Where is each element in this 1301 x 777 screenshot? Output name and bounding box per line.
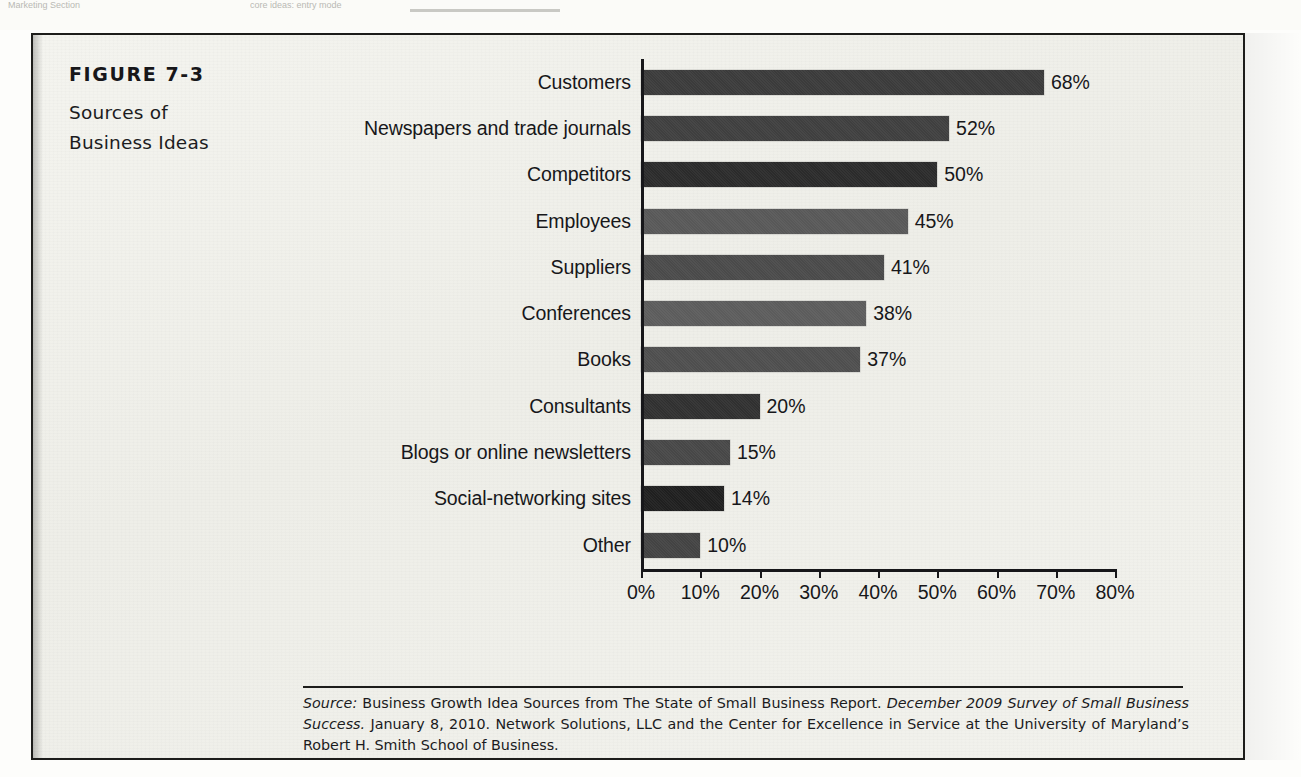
- bar-track: 10%: [641, 522, 1183, 568]
- bar-value-label: 15%: [737, 441, 776, 464]
- bar-track: 15%: [641, 429, 1183, 475]
- spine-shadow: [33, 35, 43, 758]
- bar-row: Employees45%: [303, 198, 1183, 244]
- bar: [641, 533, 700, 558]
- x-axis-tick: [1115, 569, 1117, 578]
- bar: [641, 70, 1044, 95]
- bar-value-label: 37%: [867, 348, 906, 371]
- bar-chart-plot-area: Customers68%Newspapers and trade journal…: [303, 59, 1183, 629]
- bar-category-label: Conferences: [303, 302, 641, 325]
- x-axis-tick: [937, 569, 939, 578]
- x-axis-tick-label: 70%: [1036, 581, 1075, 604]
- x-axis-tick: [641, 569, 643, 578]
- bar: [641, 347, 860, 372]
- x-axis-tick-label: 80%: [1095, 581, 1134, 604]
- bar-row: Other10%: [303, 522, 1183, 568]
- x-axis-tick: [1056, 569, 1058, 578]
- bar-value-label: 52%: [956, 117, 995, 140]
- x-axis-tick-label: 40%: [858, 581, 897, 604]
- x-axis-tick-label: 50%: [918, 581, 957, 604]
- source-text-2: January 8, 2010. Network Solutions, LLC …: [303, 716, 1189, 753]
- bar-track: 50%: [641, 152, 1183, 198]
- x-axis-tick: [760, 569, 762, 578]
- figure-title-line-2: Business Ideas: [69, 128, 309, 158]
- bar-value-label: 41%: [891, 256, 930, 279]
- bar-row: Newspapers and trade journals52%: [303, 105, 1183, 151]
- x-axis-tick-label: 0%: [627, 581, 655, 604]
- bar-track: 68%: [641, 59, 1183, 105]
- bar-row: Books37%: [303, 337, 1183, 383]
- bleed-text-left: Marketing Section: [8, 0, 158, 11]
- bleed-rule: [410, 9, 560, 12]
- bar-row: Consultants20%: [303, 383, 1183, 429]
- bar: [641, 440, 730, 465]
- x-axis-tick-label: 10%: [681, 581, 720, 604]
- bar: [641, 162, 937, 187]
- source-divider: [303, 686, 1183, 688]
- bar-category-label: Suppliers: [303, 256, 641, 279]
- x-axis-tick: [997, 569, 999, 578]
- source-label: Source:: [303, 695, 357, 711]
- x-axis-tick: [700, 569, 702, 578]
- bar-track: 45%: [641, 198, 1183, 244]
- bar-value-label: 68%: [1051, 71, 1090, 94]
- bar-category-label: Blogs or online newsletters: [303, 441, 641, 464]
- bar-track: 41%: [641, 244, 1183, 290]
- page-right-shadow: [1245, 33, 1301, 760]
- bar-row: Suppliers41%: [303, 244, 1183, 290]
- x-axis-tick-label: 60%: [977, 581, 1016, 604]
- bar-category-label: Employees: [303, 210, 641, 233]
- bar-category-label: Consultants: [303, 395, 641, 418]
- bar-category-label: Customers: [303, 71, 641, 94]
- bar-track: 52%: [641, 105, 1183, 151]
- bar-track: 20%: [641, 383, 1183, 429]
- x-axis-tick: [819, 569, 821, 578]
- bar-value-label: 14%: [731, 487, 770, 510]
- bar: [641, 255, 884, 280]
- bar-category-label: Newspapers and trade journals: [303, 117, 641, 140]
- bar-rows: Customers68%Newspapers and trade journal…: [303, 59, 1183, 568]
- bar-value-label: 50%: [944, 163, 983, 186]
- bar: [641, 394, 760, 419]
- bar-track: 14%: [641, 476, 1183, 522]
- bar-row: Conferences38%: [303, 290, 1183, 336]
- figure-caption: FIGURE 7-3 Sources of Business Ideas: [69, 63, 309, 158]
- bar: [641, 209, 908, 234]
- figure-title-line-1: Sources of: [69, 98, 309, 128]
- bar-track: 38%: [641, 290, 1183, 336]
- x-axis-tick: [878, 569, 880, 578]
- bar: [641, 486, 724, 511]
- bar-row: Blogs or online newsletters15%: [303, 429, 1183, 475]
- bar-category-label: Other: [303, 534, 641, 557]
- bar-category-label: Competitors: [303, 163, 641, 186]
- bar-row: Competitors50%: [303, 152, 1183, 198]
- bar-category-label: Social-networking sites: [303, 487, 641, 510]
- page-bleed: Marketing Section core ideas: entry mode: [0, 0, 1301, 30]
- y-axis-line: [641, 59, 644, 569]
- figure-frame: FIGURE 7-3 Sources of Business Ideas Cus…: [31, 33, 1245, 760]
- x-axis-tick-label: 30%: [799, 581, 838, 604]
- figure-number: FIGURE 7-3: [69, 63, 309, 85]
- bar-value-label: 38%: [873, 302, 912, 325]
- bar-row: Customers68%: [303, 59, 1183, 105]
- source-text-1: Business Growth Idea Sources from The St…: [357, 695, 887, 711]
- source-note: Source: Business Growth Idea Sources fro…: [303, 693, 1189, 756]
- bar-value-label: 10%: [707, 534, 746, 557]
- bar-track: 37%: [641, 337, 1183, 383]
- x-axis-tick-label: 20%: [740, 581, 779, 604]
- bar: [641, 301, 866, 326]
- bar-row: Social-networking sites14%: [303, 476, 1183, 522]
- bar-value-label: 20%: [767, 395, 806, 418]
- bar-category-label: Books: [303, 348, 641, 371]
- bar: [641, 116, 949, 141]
- bar-value-label: 45%: [915, 210, 954, 233]
